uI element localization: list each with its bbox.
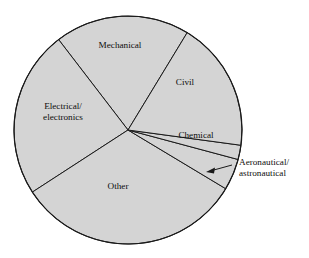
slice-label-chemical: Chemical (178, 130, 214, 140)
label-line: Other (108, 181, 129, 191)
label-line: Electrical/ (44, 101, 82, 111)
label-line: astronautical (239, 168, 286, 178)
label-line: Aeronautical/ (239, 157, 289, 167)
slice-label-civil: Civil (176, 77, 195, 87)
label-line: Civil (176, 77, 195, 87)
label-line: Chemical (178, 130, 214, 140)
slice-label-electrical-electronics: Electrical/electronics (43, 101, 83, 122)
slice-label-other: Other (108, 181, 129, 191)
label-line: electronics (43, 112, 83, 122)
pie-chart-svg: MechanicalElectrical/electronicsOtherAer… (0, 0, 309, 258)
callout-label-aeronautical-astronautical: Aeronautical/astronautical (239, 157, 289, 178)
label-line: Mechanical (99, 40, 142, 50)
slice-label-mechanical: Mechanical (99, 40, 142, 50)
pie-chart-figure: MechanicalElectrical/electronicsOtherAer… (0, 0, 309, 258)
